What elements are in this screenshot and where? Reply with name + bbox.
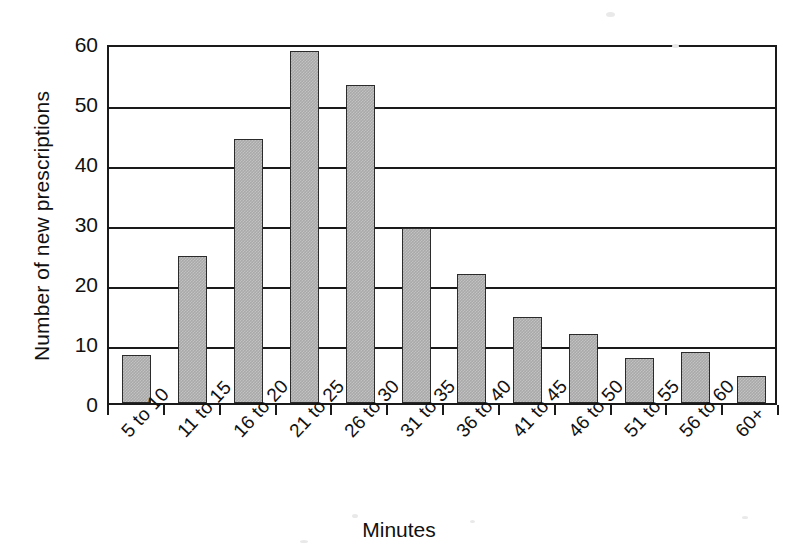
bar bbox=[457, 274, 486, 403]
bar bbox=[290, 51, 319, 403]
bar bbox=[234, 139, 263, 403]
y-tick-label: 20 bbox=[54, 274, 98, 295]
bar bbox=[178, 256, 207, 403]
y-tick-label: 30 bbox=[54, 214, 98, 235]
y-tick-label: 60 bbox=[54, 34, 98, 55]
y-tick-label: 50 bbox=[54, 94, 98, 115]
bar bbox=[513, 317, 542, 403]
bar bbox=[737, 376, 766, 403]
y-axis-tick-labels: 0102030405060 bbox=[50, 0, 98, 558]
x-axis-tick-labels: 5 to 1011 to 1516 to 2021 to 2526 to 303… bbox=[107, 405, 798, 505]
y-tick-label: 10 bbox=[54, 334, 98, 355]
y-tick-label: 0 bbox=[54, 394, 98, 415]
scan-artifact bbox=[606, 12, 615, 17]
bar bbox=[402, 228, 431, 403]
bar-chart-figure: Number of new prescriptions 010203040506… bbox=[0, 0, 798, 558]
bar bbox=[346, 85, 375, 403]
bar bbox=[569, 334, 598, 403]
plot-area bbox=[107, 45, 777, 405]
x-tick-label: 60+ bbox=[731, 403, 769, 442]
x-axis-title: Minutes bbox=[0, 518, 798, 542]
y-tick-label: 40 bbox=[54, 154, 98, 175]
bars-layer bbox=[109, 47, 775, 403]
